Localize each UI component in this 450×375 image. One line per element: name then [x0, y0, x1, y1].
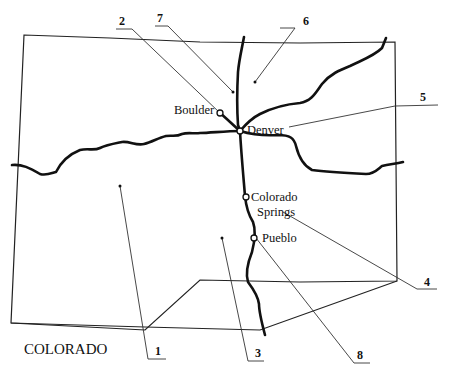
- city-marker-denver: [237, 128, 243, 134]
- colorado-map: Boulder Denver Colorado Springs Pueblo 2…: [0, 0, 450, 375]
- region-dot-6: [254, 81, 257, 84]
- region-dot-1: [119, 185, 122, 188]
- callout-number-4: 4: [424, 275, 430, 289]
- city-marker-pueblo: [251, 235, 257, 241]
- callout-number-8: 8: [357, 348, 363, 362]
- region-dot-7: [232, 91, 235, 94]
- callout-number-2: 2: [119, 14, 125, 28]
- leader-line-1: [120, 186, 166, 359]
- leader-line-4: [283, 212, 437, 289]
- callout-number-6: 6: [303, 14, 309, 28]
- callout-number-5: 5: [420, 90, 426, 104]
- state-border-bottom: [11, 281, 397, 330]
- leader-line-7: [155, 26, 233, 92]
- region-dot-3: [221, 237, 224, 240]
- river-arkansas-east: [240, 131, 403, 174]
- river-south-platte-northeast: [240, 38, 386, 131]
- leader-line-6: [255, 28, 295, 82]
- callout-number-1: 1: [155, 344, 161, 358]
- city-marker-boulder: [217, 110, 223, 116]
- callout-number-7: 7: [157, 11, 163, 25]
- callout-number-3: 3: [255, 346, 261, 360]
- river-colorado: [12, 131, 240, 175]
- city-marker-colorado-springs: [243, 194, 249, 200]
- leader-line-8: [256, 238, 370, 363]
- city-label-boulder: Boulder: [174, 103, 215, 117]
- city-label-colorado-springs-line2: Springs: [257, 205, 295, 219]
- river-south-platte-north: [237, 37, 244, 131]
- city-label-denver: Denver: [247, 123, 285, 137]
- city-label-colorado-springs-line1: Colorado: [251, 190, 298, 204]
- city-label-pueblo: Pueblo: [262, 231, 297, 245]
- leader-line-5: [289, 105, 438, 127]
- state-border: [11, 35, 397, 330]
- state-title: COLORADO: [24, 341, 108, 357]
